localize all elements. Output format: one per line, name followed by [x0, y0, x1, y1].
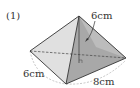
- height-label: 6cm: [91, 10, 113, 21]
- pyramid-diagram: (1) 6cm 6cm 8cm: [0, 0, 140, 88]
- base-side-right-label: 8cm: [93, 76, 115, 87]
- base-side-left-label: 6cm: [23, 68, 45, 79]
- problem-number: (1): [6, 10, 20, 21]
